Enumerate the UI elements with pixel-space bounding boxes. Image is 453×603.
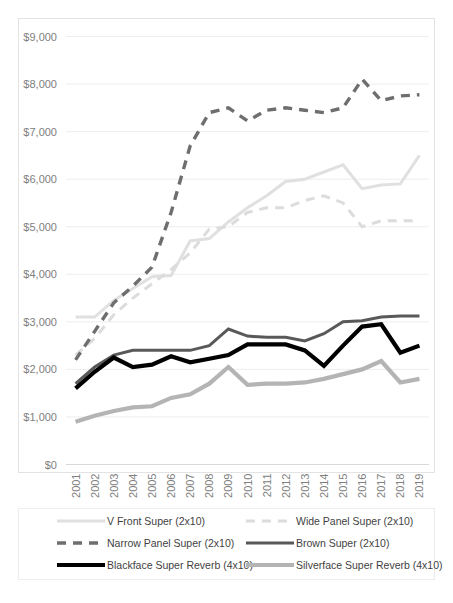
y-gridlines: $0$1,000$2,000$3,000$4,000$5,000$6,000$7… xyxy=(23,31,429,471)
series-line xyxy=(76,361,420,422)
legend-label: Brown Super (2x10) xyxy=(296,537,389,549)
y-axis-tick-label: $3,000 xyxy=(23,316,57,328)
x-axis-tick-label: 2009 xyxy=(222,474,234,498)
series-line xyxy=(76,79,420,360)
chart-container: $0$1,000$2,000$3,000$4,000$5,000$6,000$7… xyxy=(0,0,453,603)
x-axis-tick-label: 2001 xyxy=(70,474,82,498)
x-axis-tick-label: 2012 xyxy=(280,474,292,498)
x-axis-tick-label: 2006 xyxy=(165,474,177,498)
x-axis-tick-label: 2013 xyxy=(299,474,311,498)
x-axis-tick-label: 2007 xyxy=(184,474,196,498)
x-axis-tick-label: 2010 xyxy=(242,474,254,498)
x-axis-tick-label: 2019 xyxy=(413,474,425,498)
series-group xyxy=(76,79,420,421)
series-line xyxy=(76,196,420,355)
x-axis-tick-label: 2008 xyxy=(203,474,215,498)
x-axis-tick-label: 2004 xyxy=(127,474,139,498)
y-axis-tick-label: $4,000 xyxy=(23,268,57,280)
x-axis-tick-label: 2002 xyxy=(89,474,101,498)
legend-item[interactable]: Narrow Panel Super (2x10) xyxy=(57,537,234,549)
x-axis-tick-label: 2017 xyxy=(375,474,387,498)
x-axis-tick-label: 2018 xyxy=(394,474,406,498)
x-axis-tick-label: 2003 xyxy=(108,474,120,498)
line-chart: $0$1,000$2,000$3,000$4,000$5,000$6,000$7… xyxy=(0,0,453,603)
y-axis-tick-label: $9,000 xyxy=(23,31,57,43)
y-axis-tick-label: $6,000 xyxy=(23,173,57,185)
legend-item[interactable]: Brown Super (2x10) xyxy=(246,537,389,549)
legend-item[interactable]: Silverface Super Reverb (4x10) xyxy=(246,559,442,571)
legend: V Front Super (2x10)Wide Panel Super (2x… xyxy=(57,515,442,571)
legend-label: Blackface Super Reverb (4x10) xyxy=(107,559,253,571)
x-axis-tick-label: 2016 xyxy=(356,474,368,498)
y-axis-tick-label: $2,000 xyxy=(23,363,57,375)
x-axis-tick-label: 2005 xyxy=(146,474,158,498)
legend-label: Silverface Super Reverb (4x10) xyxy=(296,559,442,571)
x-axis-tick-label: 2011 xyxy=(261,474,273,498)
x-axis-tick-label: 2014 xyxy=(318,474,330,498)
legend-label: V Front Super (2x10) xyxy=(107,515,205,527)
legend-item[interactable]: Wide Panel Super (2x10) xyxy=(246,515,413,527)
x-axis-tick-label: 2015 xyxy=(337,474,349,498)
y-axis-tick-label: $1,000 xyxy=(23,411,57,423)
series-line xyxy=(76,324,420,388)
y-axis-tick-label: $7,000 xyxy=(23,126,57,138)
legend-label: Wide Panel Super (2x10) xyxy=(296,515,413,527)
legend-item[interactable]: V Front Super (2x10) xyxy=(57,515,205,527)
legend-item[interactable]: Blackface Super Reverb (4x10) xyxy=(57,559,253,571)
y-axis-tick-label: $8,000 xyxy=(23,78,57,90)
y-axis-tick-label: $5,000 xyxy=(23,221,57,233)
x-axis-tick-labels: 2001200220032004200520062007200820092010… xyxy=(70,474,426,498)
y-axis-tick-label: $0 xyxy=(45,459,57,471)
legend-label: Narrow Panel Super (2x10) xyxy=(107,537,234,549)
